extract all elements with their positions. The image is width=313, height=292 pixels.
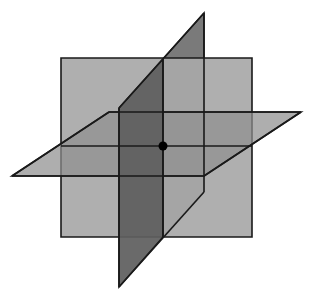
intersection-point xyxy=(159,142,168,151)
three-planes-diagram xyxy=(0,0,313,292)
point-layer xyxy=(159,142,168,151)
